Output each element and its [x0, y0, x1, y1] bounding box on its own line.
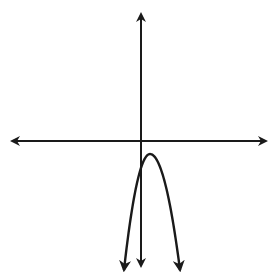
parabola-graph — [0, 0, 272, 272]
parabola-curve — [124, 154, 180, 270]
